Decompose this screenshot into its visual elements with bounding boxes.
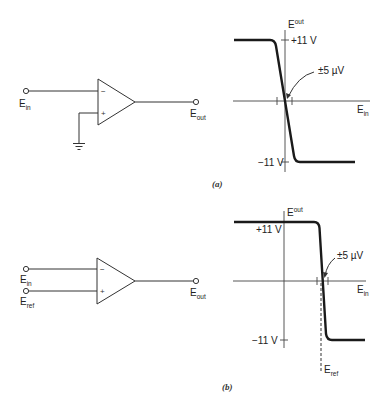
- ref-marker-label: Eref: [324, 364, 338, 377]
- transfer-graph-a: Eout +11 V −11 V Ein ±5 µV: [233, 18, 370, 172]
- inverting-sign: −: [101, 87, 106, 96]
- ref-label: Eref: [20, 296, 34, 309]
- output-label: Eout: [190, 287, 206, 300]
- ground-icon: [73, 144, 85, 150]
- input-terminal-icon: [23, 266, 28, 271]
- annotation-arrow: [288, 72, 314, 97]
- opamp-icon: [98, 79, 135, 125]
- ground-wire: [79, 113, 98, 143]
- output-terminal-icon: [193, 278, 198, 283]
- input-label: Ein: [20, 274, 32, 287]
- input-label: Ein: [19, 98, 31, 111]
- noninverting-sign: +: [100, 287, 105, 296]
- x-axis-label: Ein: [357, 104, 369, 117]
- output-terminal-icon: [193, 99, 198, 104]
- ref-terminal-icon: [23, 288, 28, 293]
- transfer-graph-b: Eout +11 V −11 V Ein ±5 µV Eref: [233, 206, 369, 377]
- input-terminal-icon: [23, 88, 28, 93]
- circuit-a: − + Ein Eout: [19, 79, 206, 150]
- inverting-sign: −: [100, 265, 105, 274]
- caption-b: (b): [222, 382, 233, 392]
- caption-a: (a): [212, 179, 223, 189]
- output-label: Eout: [190, 108, 206, 121]
- circuit-b: − + Ein Eref Eout: [20, 258, 206, 309]
- x-axis-label: Ein: [357, 284, 369, 297]
- figure: − + Ein Eout Eout +11 V −11 V Ein ±5 µV …: [0, 0, 386, 407]
- neg-sat-label: −11 V: [252, 335, 278, 346]
- arrowhead-icon: [323, 272, 328, 278]
- pos-sat-label: +11 V: [256, 224, 282, 235]
- y-axis-label: Eout: [288, 18, 304, 30]
- y-axis-label: Eout: [287, 206, 303, 218]
- pos-sat-label: +11 V: [291, 35, 317, 46]
- window-annotation: ±5 µV: [318, 65, 345, 76]
- window-annotation: ±5 µV: [337, 250, 364, 261]
- arrowhead-icon: [286, 93, 291, 99]
- noninverting-sign: +: [101, 109, 106, 118]
- neg-sat-label: −11 V: [258, 157, 284, 168]
